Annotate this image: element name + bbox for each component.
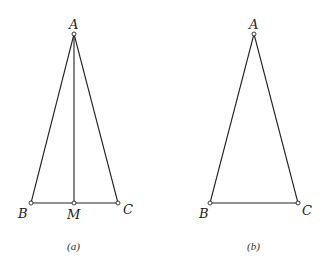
point-b xyxy=(29,201,33,205)
segment-ac xyxy=(254,34,298,203)
point-c xyxy=(116,201,120,205)
point-b xyxy=(208,201,212,205)
caption-a: (a) xyxy=(67,240,80,253)
label-b: B xyxy=(198,206,209,221)
segment-ac xyxy=(74,34,118,203)
figure-b: A B C (b) xyxy=(198,17,312,253)
diagram-canvas: A B M C (a) A B C (b) xyxy=(0,0,330,262)
point-m xyxy=(72,201,76,205)
caption-b: (b) xyxy=(247,240,260,253)
label-c: C xyxy=(302,203,312,218)
point-a xyxy=(252,32,256,36)
point-c xyxy=(296,201,300,205)
figure-a: A B M C (a) xyxy=(17,17,133,253)
segment-ab xyxy=(210,34,254,203)
label-m: M xyxy=(66,207,81,222)
label-a: A xyxy=(68,17,78,32)
point-a xyxy=(72,32,76,36)
label-b: B xyxy=(17,206,28,221)
label-c: C xyxy=(123,202,133,217)
label-a: A xyxy=(248,17,258,32)
segment-ab xyxy=(31,34,74,203)
